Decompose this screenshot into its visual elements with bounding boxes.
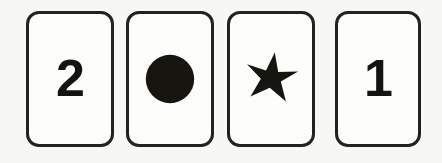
card-face: 1	[338, 14, 418, 144]
card-star[interactable]	[227, 11, 315, 147]
digit-one-glyph: 1	[364, 52, 392, 104]
six-pointed-star-icon	[243, 51, 299, 107]
card-face	[230, 14, 312, 144]
card-face: 2	[29, 14, 111, 144]
card-circle[interactable]	[126, 11, 214, 147]
card-row-scene: 2 1	[0, 0, 442, 163]
filled-circle-icon	[145, 54, 195, 104]
card-face	[129, 14, 211, 144]
card-digit-one[interactable]: 1	[335, 11, 421, 147]
card-digit-two[interactable]: 2	[26, 11, 114, 147]
digit-two-glyph: 2	[56, 52, 84, 104]
